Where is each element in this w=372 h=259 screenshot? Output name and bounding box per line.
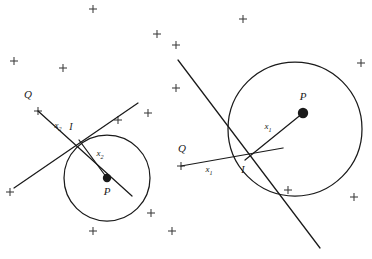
geometry-figure: PIx2x2QPIx1x1Q (0, 0, 372, 259)
right-panel-center-label: P (299, 90, 307, 102)
left-panel-q-label: Q (24, 88, 32, 100)
left-panel-intersection-label: I (68, 121, 73, 132)
left-panel-center-label: P (103, 185, 111, 197)
right-panel-intersection-label: I (240, 164, 245, 175)
right-panel-center-dot (298, 108, 308, 118)
diagram-canvas: PIx2x2QPIx1x1Q (0, 0, 372, 259)
left-panel-center-dot (103, 174, 111, 182)
right-panel-q-label: Q (178, 142, 186, 154)
